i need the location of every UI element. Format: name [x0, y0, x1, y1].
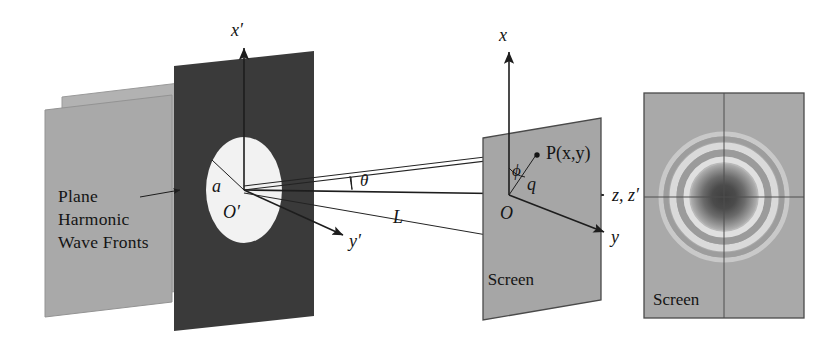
- axis-x-label: x: [498, 25, 507, 45]
- caption-line-2: Harmonic: [58, 209, 130, 229]
- wavefront-plane-front: [45, 95, 172, 317]
- axis-x-prime-label: x′: [230, 20, 244, 40]
- diagram-canvas: x′ y′ z, z′ θ L x y ϕ: [0, 0, 839, 351]
- axis-y-label: y: [609, 227, 619, 247]
- diffraction-figure: x′ y′ z, z′ θ L x y ϕ: [0, 0, 839, 351]
- axis-y-prime-label: y′: [347, 231, 362, 251]
- radial-distance-q-label: q: [527, 174, 536, 194]
- airy-pattern-panel-group: Screen: [644, 93, 804, 318]
- point-P-label: P(x,y): [546, 143, 591, 164]
- screen-label-middle: Screen: [488, 270, 535, 289]
- angle-phi-label: ϕ: [512, 161, 521, 180]
- screen-label-right: Screen: [653, 290, 700, 309]
- origin-O-label: O: [500, 203, 513, 223]
- aperture-radius-label: a: [212, 176, 221, 196]
- angle-theta-label: θ: [360, 171, 368, 190]
- caption-line-1: Plane: [58, 186, 98, 206]
- caption-line-3: Wave Fronts: [58, 232, 149, 252]
- axis-z-label: z, z′: [611, 185, 640, 205]
- aperture-origin-label: O′: [223, 202, 241, 222]
- distance-L-label: L: [392, 207, 403, 227]
- point-P-marker: [534, 152, 539, 157]
